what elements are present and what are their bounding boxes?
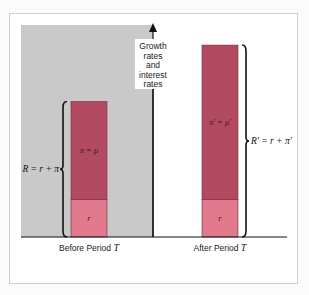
bracket-after	[242, 45, 249, 237]
category-label-after: After Period T	[194, 242, 248, 253]
bracket-label-after: R′ = r + π′	[250, 136, 293, 146]
chart: rπ = μrπ′ = μ′ Growthratesandinterestrat…	[0, 0, 309, 295]
bracket-label-before: R = r + π	[21, 164, 59, 174]
bar-label-inflation-before: π = μ	[80, 145, 99, 155]
bar-label-inflation-after: π′ = μ′	[209, 117, 231, 127]
category-label-before: Before Period T	[59, 242, 120, 253]
y-label-line: and	[146, 60, 160, 70]
y-label-line: Growth	[139, 41, 167, 51]
y-label-line: rates	[144, 79, 163, 89]
y-label-line: rates	[144, 51, 163, 61]
y-label-line: interest	[139, 70, 168, 80]
